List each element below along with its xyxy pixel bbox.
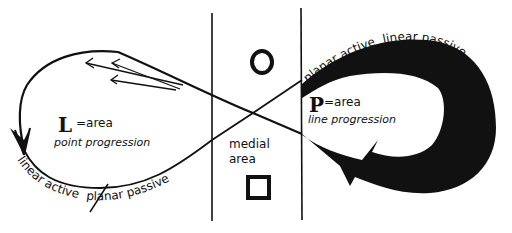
left-loop-letter: L	[58, 113, 72, 137]
circle-symbol-icon	[252, 51, 272, 73]
medial-label-line1: medial	[229, 137, 270, 151]
right-loop-subtitle: line progression	[308, 113, 396, 126]
figure-eight-diagram: planar active linear passive linear acti…	[0, 0, 512, 233]
right-divider-line	[301, 8, 302, 220]
right-loop-equation: =area	[324, 95, 361, 109]
medial-label-line2: area	[229, 152, 256, 166]
left-loop-subtitle: point progression	[53, 136, 150, 149]
square-symbol-icon	[248, 177, 269, 198]
left-loop-equation: =area	[76, 116, 113, 130]
